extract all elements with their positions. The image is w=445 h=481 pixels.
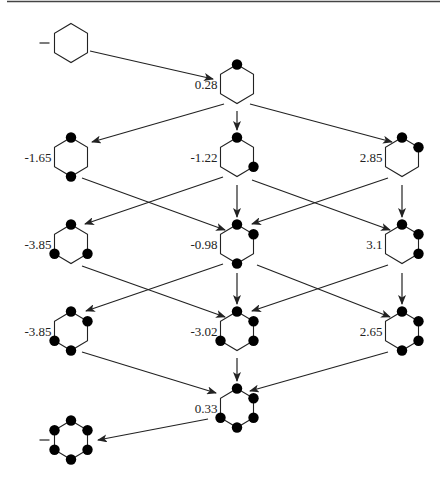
hexagon-ring (55, 312, 88, 351)
occupied-site-dot (66, 345, 76, 355)
hexagon-ring (221, 389, 254, 428)
occupied-site-dot (248, 162, 258, 172)
transition-arrow (92, 104, 224, 142)
occupied-site-dot (413, 316, 423, 326)
transition-arrow (90, 51, 213, 79)
hexagon-node (40, 24, 88, 63)
occupied-site-dot (232, 59, 242, 69)
occupied-site-dot (232, 132, 242, 142)
transition-arrow (98, 419, 208, 440)
occupied-site-dot (413, 142, 423, 152)
occupied-site-dot (248, 316, 258, 326)
transition-arrow (250, 352, 388, 391)
occupied-site-dot (232, 422, 242, 432)
occupied-site-dot (413, 229, 423, 239)
hexagon-ring (221, 138, 254, 177)
hexagon-node: -0.98 (190, 219, 258, 268)
transition-arrow (86, 264, 223, 311)
hexagon-node: -1.22 (190, 132, 258, 176)
occupied-site-dot (397, 345, 407, 355)
hexagon-node: -3.85 (24, 306, 92, 355)
occupied-site-dot (232, 383, 242, 393)
hexagon-ring (55, 225, 88, 264)
transition-arrow (252, 180, 390, 230)
occupied-site-dot (232, 306, 242, 316)
hexagon-ring (55, 421, 88, 460)
transition-arrow (252, 265, 388, 311)
transition-arrow (82, 178, 225, 230)
hexagon-ring (221, 65, 254, 104)
occupied-site-dot (66, 219, 76, 229)
energy-label: 2.65 (360, 324, 383, 339)
energy-label: 0.33 (195, 401, 218, 416)
hexagon-ring (221, 225, 254, 264)
hexagon-node: 2.85 (360, 132, 424, 176)
transition-arrow (250, 104, 392, 142)
occupied-site-dot (248, 413, 258, 423)
transition-arrow (257, 265, 390, 317)
energy-label: -3.85 (24, 324, 51, 339)
energy-label: -0.98 (190, 237, 217, 252)
occupied-site-dot (66, 454, 76, 464)
occupied-site-dot (49, 425, 59, 435)
energy-label: -3.85 (24, 237, 51, 252)
energy-label: 2.85 (360, 150, 383, 165)
occupied-site-dot (232, 258, 242, 268)
hexagon-node (40, 415, 93, 464)
energy-label: -3.02 (190, 324, 217, 339)
hexagon-node: -1.65 (24, 132, 87, 181)
hexagon-ring (221, 312, 254, 351)
hexagon-ring (386, 225, 419, 264)
occupied-site-dot (66, 306, 76, 316)
occupied-site-dot (66, 415, 76, 425)
hexagon-node: 2.65 (360, 306, 424, 355)
occupied-site-dot (248, 229, 258, 239)
occupied-site-dot (66, 132, 76, 142)
occupied-site-dot (397, 132, 407, 142)
energy-label: 3.1 (366, 237, 382, 252)
energy-label: 0.28 (195, 77, 218, 92)
site-filling-diagram: 0.28-1.65-1.222.85-3.85-0.983.1-3.85-3.0… (0, 0, 445, 481)
transition-arrow (85, 177, 223, 224)
arrows-layer (82, 51, 402, 440)
hexagon-node: 0.28 (195, 59, 254, 103)
transition-arrow (252, 178, 388, 224)
hexagon-node: 3.1 (366, 219, 423, 263)
occupied-site-dot (248, 336, 258, 346)
hexagon-ring (386, 138, 419, 177)
occupied-site-dot (49, 445, 59, 455)
occupied-site-dot (66, 171, 76, 181)
occupied-site-dot (82, 316, 92, 326)
occupied-site-dot (413, 249, 423, 259)
nodes-layer: 0.28-1.65-1.222.85-3.85-0.983.1-3.85-3.0… (24, 24, 423, 465)
hexagon-ring (386, 312, 419, 351)
transition-arrow (82, 266, 225, 317)
occupied-site-dot (413, 336, 423, 346)
occupied-site-dot (82, 425, 92, 435)
occupied-site-dot (82, 249, 92, 259)
occupied-site-dot (397, 306, 407, 316)
transition-arrow (82, 352, 216, 393)
energy-label: -1.65 (24, 150, 51, 165)
hexagon-node: -3.02 (190, 306, 258, 350)
hexagon-ring (55, 24, 88, 63)
hexagon-node: 0.33 (195, 383, 259, 432)
hexagon-ring (55, 138, 88, 177)
occupied-site-dot (397, 219, 407, 229)
hexagon-node: -3.85 (24, 219, 92, 263)
energy-label: -1.22 (190, 150, 217, 165)
occupied-site-dot (82, 445, 92, 455)
occupied-site-dot (232, 219, 242, 229)
occupied-site-dot (248, 393, 258, 403)
